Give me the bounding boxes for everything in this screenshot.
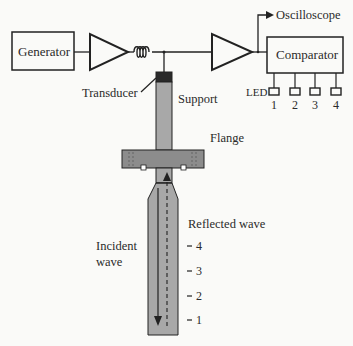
coil-icon <box>134 47 149 58</box>
position-mark-3: 3 <box>196 265 202 277</box>
led-4-icon <box>331 88 341 95</box>
reflected-wave-label: Reflected wave <box>188 218 265 231</box>
transducer-pointer <box>141 78 156 92</box>
position-mark-2: 2 <box>196 290 202 302</box>
position-mark-1: 1 <box>196 314 202 326</box>
transducer-label: Transducer <box>82 87 138 100</box>
led-number-2: 2 <box>292 99 298 111</box>
transducer-block <box>156 72 172 82</box>
amplifier-2-icon <box>212 34 252 70</box>
seal-right <box>181 165 186 170</box>
generator-label: Generator <box>18 45 70 58</box>
led-label: LED <box>246 87 267 98</box>
support-label: Support <box>178 93 218 106</box>
seal-left <box>141 165 146 170</box>
arrow-right-icon <box>266 11 274 19</box>
flange-label: Flange <box>210 132 244 145</box>
position-mark-4: 4 <box>196 240 202 252</box>
comparator-label: Comparator <box>276 48 338 61</box>
led-number-4: 4 <box>333 99 339 111</box>
led-2-icon <box>290 88 300 95</box>
incident-wave-label-line2: wave <box>96 256 122 269</box>
waveguide-rod <box>148 183 178 335</box>
oscilloscope-label: Oscilloscope <box>276 9 341 22</box>
incident-wave-label-line1: Incident <box>96 240 137 253</box>
junction-dot <box>163 51 166 54</box>
led-3-icon <box>310 88 320 95</box>
led-number-1: 1 <box>271 99 277 111</box>
led-number-3: 3 <box>312 99 318 111</box>
amplifier-1-icon <box>90 34 128 70</box>
support-rod <box>156 82 172 150</box>
led-1-icon <box>269 88 279 95</box>
